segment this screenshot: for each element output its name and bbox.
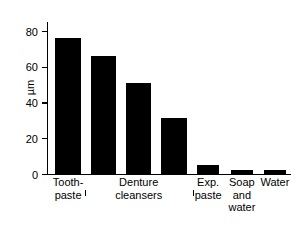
y-axis-tick: 40 [42, 102, 47, 103]
plot-area: 806040200 [47, 22, 291, 174]
bar [91, 56, 116, 174]
bar [161, 118, 186, 174]
y-axis-tick-label: 20 [26, 133, 38, 144]
y-axis-line [47, 22, 48, 174]
bar [197, 165, 218, 174]
category-label: Tooth- paste [39, 176, 97, 201]
bar-chart: µm 806040200 Tooth- pasteDenture cleanse… [0, 0, 298, 226]
category-label: Denture cleansers [91, 176, 187, 201]
bar [126, 83, 151, 174]
bar [264, 170, 285, 174]
y-axis-tick-label: 60 [26, 62, 38, 73]
y-axis-tick: 60 [42, 67, 47, 68]
y-axis-tick-label: 80 [26, 26, 38, 37]
bar [55, 38, 80, 174]
y-axis-tick-label: 40 [26, 98, 38, 109]
category-label: Water [249, 176, 298, 189]
bar [231, 170, 252, 174]
y-axis-tick-label: 0 [32, 169, 38, 180]
y-axis-tick: 0 [42, 174, 47, 175]
denture-cleansers-bracket [85, 190, 194, 196]
y-axis-tick: 80 [42, 31, 47, 32]
y-axis-tick: 20 [42, 138, 47, 139]
